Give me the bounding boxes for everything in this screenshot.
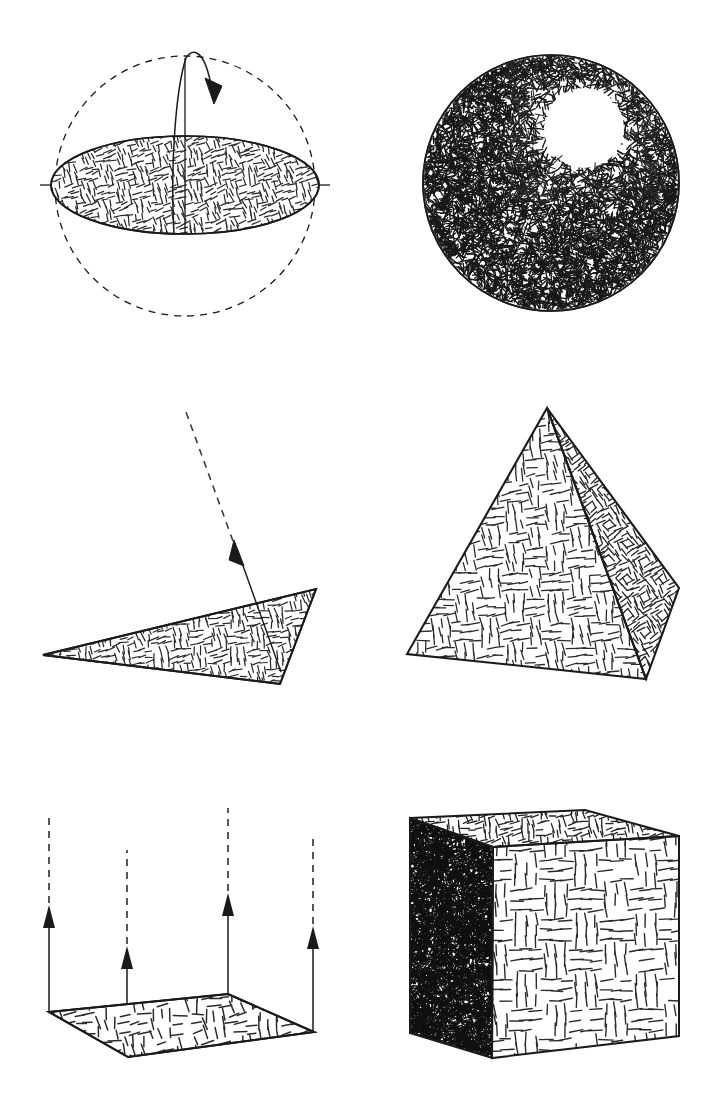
cube-front-face [478, 822, 683, 1068]
normal-dashed-segment [186, 412, 233, 541]
arrowhead-right [307, 926, 319, 949]
arrowhead-back [222, 893, 234, 916]
arrowhead-front [121, 946, 133, 969]
panel-cube [361, 742, 722, 1113]
hatched-ground-plane [37, 981, 322, 1068]
panel-wireframe-sphere [0, 0, 361, 371]
pyramid-drawing [361, 371, 722, 742]
cube-left-face [400, 809, 502, 1066]
cube-drawing [361, 742, 722, 1113]
normal-arrow-left [43, 818, 55, 1012]
panel-normal-plane [0, 742, 361, 1113]
panel-normal-triangle [0, 371, 361, 742]
normal-arrowhead [229, 540, 244, 566]
arrowhead-left [43, 905, 55, 928]
wireframe-sphere-drawing [0, 0, 361, 371]
specular-highlight [544, 88, 624, 168]
equatorial-disc [41, 127, 327, 239]
shaded-sphere-drawing [361, 0, 722, 371]
panel-shaded-sphere [361, 0, 722, 371]
normal-triangle-drawing [0, 371, 361, 742]
figure-sheet [0, 0, 722, 1113]
normal-arrow-back [222, 808, 234, 994]
rotation-arrowhead [205, 78, 222, 104]
normal-plane-drawing [0, 742, 361, 1113]
normal-arrow-right [307, 834, 319, 1032]
hatched-triangle [34, 581, 321, 688]
panel-pyramid [361, 371, 722, 742]
